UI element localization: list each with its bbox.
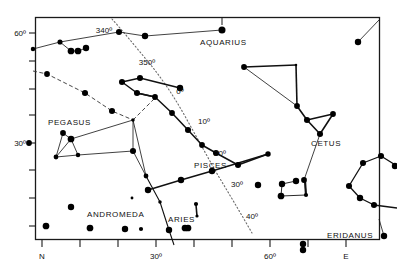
corner-diagonal [358, 20, 379, 42]
pegasus-dashed-up [133, 97, 156, 120]
corner-line [358, 20, 379, 42]
aries-lines [196, 205, 197, 216]
star-marker [279, 181, 285, 187]
constellation-label-pegasus: PEGASUS [48, 118, 91, 127]
eridanus-upper [349, 156, 397, 186]
pisces-lower-chain [148, 154, 268, 190]
star-marker [317, 131, 323, 137]
star-marker [346, 183, 352, 189]
pegasus-sq-right [133, 120, 146, 176]
star-marker [169, 110, 175, 116]
eridanus-lines [349, 156, 397, 208]
constellation-label-aries: ARIES [168, 215, 195, 224]
cetus-head-lower [297, 106, 333, 120]
star-marker [116, 29, 122, 35]
y-axis-label-60: 60º [14, 29, 26, 38]
star-marker [378, 153, 384, 159]
pegasus-sq-bottom [78, 151, 133, 155]
star-marker [134, 90, 140, 96]
star-marker [130, 148, 136, 154]
star-marker [131, 118, 135, 122]
star-marker [360, 160, 366, 166]
star-marker [182, 225, 189, 232]
star-marker [144, 174, 149, 179]
star-marker [278, 193, 285, 200]
pisces-lines [122, 78, 268, 190]
aquarius-seg-1 [33, 42, 71, 51]
cetus-diagonal [244, 67, 297, 106]
star-marker [158, 200, 162, 204]
ecliptic-label-20: 20º [214, 149, 226, 158]
star-marker [83, 45, 89, 51]
star-marker [119, 79, 125, 85]
cetus-q-bottom [281, 195, 306, 196]
star-marker [357, 195, 363, 201]
x-axis-label-north: N [39, 252, 45, 261]
star-marker [371, 202, 377, 208]
eridanus-lower [374, 205, 397, 208]
star-marker [75, 48, 82, 55]
pegasus-to-andromeda [133, 151, 146, 176]
star-marker [330, 111, 336, 117]
star-marker [44, 71, 50, 77]
star-marker [68, 204, 74, 210]
star-marker [199, 142, 205, 148]
star-marker [57, 39, 62, 44]
cetus-lower-bold [305, 181, 306, 195]
star-marker [43, 223, 50, 230]
y-axis-label-30: 30º [14, 139, 26, 148]
star-marker [76, 153, 80, 157]
star-layer [26, 26, 397, 253]
star-marker [304, 193, 308, 197]
star-marker [295, 64, 298, 67]
star-marker [31, 47, 35, 51]
star-marker [145, 187, 151, 193]
ecliptic-label-10: 10º [198, 117, 210, 126]
x-axis-label-30: 30º [150, 252, 162, 261]
ecliptic-label-340: 340º [96, 26, 112, 35]
pegasus-tri-base [56, 139, 78, 157]
star-marker [300, 247, 306, 253]
star-marker [54, 155, 59, 160]
constellation-label-aquarius: AQUARIUS [200, 38, 247, 47]
aries-segment [196, 205, 197, 216]
star-marker [178, 177, 184, 183]
star-marker [68, 136, 75, 143]
constellation-label-eridanus: ERIDANUS [327, 231, 373, 240]
ecliptic-label-40: 40º [246, 212, 258, 221]
star-chart-canvas: 60º 30º N 30º 60º E 340º 350º 0º 10º 20º… [0, 0, 397, 279]
constellation-label-andromeda: ANDROMEDA [87, 210, 144, 219]
constellation-label-cetus: CETUS [311, 139, 341, 148]
star-marker [195, 214, 198, 217]
star-marker [355, 39, 361, 45]
aquarius-seg-4 [60, 30, 222, 42]
star-marker [137, 75, 143, 81]
star-marker [139, 227, 143, 231]
star-marker [166, 227, 172, 233]
star-marker [241, 64, 247, 70]
star-marker [60, 130, 66, 136]
star-marker [142, 33, 148, 39]
star-marker [235, 162, 241, 168]
constellation-label-pisces: PISCES [194, 161, 227, 170]
star-marker [194, 202, 198, 206]
star-marker [293, 178, 299, 184]
star-marker [87, 225, 94, 232]
star-chart: 60º 30º N 30º 60º E 340º 350º 0º 10º 20º… [0, 0, 397, 279]
pegasus-lines [56, 120, 146, 176]
star-marker [304, 117, 310, 123]
star-marker [301, 177, 307, 183]
star-marker [300, 241, 306, 247]
cetus-lines-thin [244, 67, 320, 180]
star-marker [218, 26, 225, 33]
cetus-q-right-bold [305, 181, 306, 195]
ecliptic-label-30: 30º [231, 180, 243, 189]
star-marker [294, 103, 300, 109]
pisces-upper-arm [122, 78, 180, 88]
star-marker [68, 48, 75, 55]
star-marker [255, 182, 261, 188]
star-marker [82, 90, 88, 96]
x-axis-label-60: 60º [264, 252, 276, 261]
star-marker [26, 140, 32, 146]
cetus-top-2 [296, 65, 297, 106]
